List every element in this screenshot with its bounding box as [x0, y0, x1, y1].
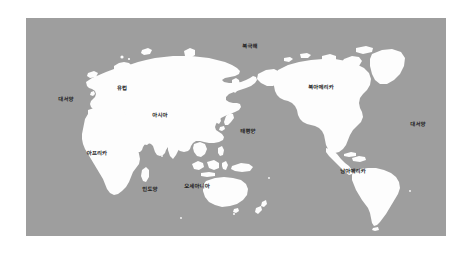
world-map-figure: 북극해유럽북아메리카대서양아시아태평양대서양아프리카남아메리카인도양오세아니아 — [26, 18, 446, 236]
island-speck-a — [120, 55, 123, 58]
philippines — [218, 146, 224, 156]
borneo — [207, 160, 219, 170]
map-label-africa: 아프리카 — [87, 152, 107, 157]
south-america-landmass — [352, 168, 400, 226]
japan-south — [219, 126, 225, 131]
map-label-atlantic-east: 대서양 — [410, 123, 425, 128]
map-label-south-america: 남아메리카 — [340, 170, 366, 175]
java — [201, 172, 215, 177]
tasmania — [233, 208, 239, 213]
island-speck-e — [180, 217, 182, 219]
indochina — [193, 142, 207, 157]
svalbard — [141, 48, 152, 55]
ireland — [90, 91, 95, 96]
greenland — [370, 49, 405, 84]
new-zealand-south — [255, 206, 262, 214]
island-speck-d — [268, 177, 270, 179]
new-zealand-north — [261, 200, 267, 207]
arctic-islet-a — [300, 53, 311, 58]
north-america-landmass — [274, 59, 371, 153]
map-label-atlantic-west: 대서양 — [58, 98, 73, 103]
map-label-oceania: 오세아니아 — [184, 185, 210, 190]
caribbean-islands — [352, 156, 366, 162]
ellesmere-island — [356, 46, 373, 54]
india — [168, 141, 179, 159]
new-guinea — [231, 163, 253, 172]
kamchatka — [232, 78, 240, 93]
map-label-pacific-ocean: 태평양 — [240, 130, 255, 135]
world-map-landmasses — [26, 18, 446, 236]
tierra-del-fuego — [372, 227, 379, 231]
sulawesi — [222, 161, 228, 170]
australia — [203, 177, 248, 207]
map-label-indian-ocean: 인도양 — [142, 188, 157, 193]
island-speck-g — [409, 190, 411, 192]
island-speck-f — [233, 213, 235, 215]
island-speck-b — [128, 58, 130, 60]
map-label-europe: 유럽 — [117, 87, 127, 92]
madagascar — [141, 167, 149, 182]
cuba — [344, 152, 356, 157]
map-label-north-america: 북아메리카 — [308, 86, 334, 91]
island-speck-h — [161, 155, 163, 157]
map-label-arctic-ocean: 북극해 — [242, 45, 257, 50]
arctic-islet-b — [284, 57, 293, 62]
map-label-asia: 아시아 — [152, 114, 167, 119]
sumatra — [192, 161, 204, 170]
